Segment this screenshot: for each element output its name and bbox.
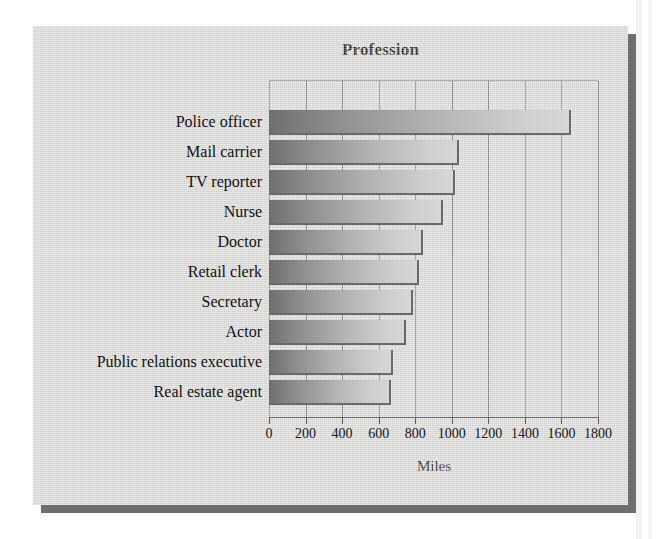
x-axis-tick-label: 800 [405,426,426,442]
bar [269,170,455,195]
x-axis-tick-label: 1200 [474,426,502,442]
gridline [598,81,599,417]
x-axis-tick-label: 1000 [438,426,466,442]
bar-row [269,320,406,345]
bar-row [269,290,413,315]
bar [269,320,406,345]
scan-band-right [648,0,652,539]
bar-row [269,200,443,225]
bar-row [269,110,571,135]
x-axis-tick [269,418,270,424]
bar [269,380,391,405]
category-label: Doctor [218,233,262,251]
bar-row [269,380,391,405]
x-axis-tick [306,418,307,424]
x-axis-tick-label: 1400 [511,426,539,442]
x-axis-label: Miles [269,458,599,475]
bar-row [269,350,393,375]
x-axis-tick [452,418,453,424]
x-axis-tick-label: 1600 [547,426,575,442]
page-background: Profession Miles 02004006008001000120014… [0,0,666,539]
x-axis-tick [525,418,526,424]
bar [269,350,393,375]
bar [269,110,571,135]
category-label: TV reporter [186,173,262,191]
x-axis-tick [379,418,380,424]
bar [269,260,419,285]
x-axis-tick-label: 600 [368,426,389,442]
x-axis-tick-label: 0 [266,426,273,442]
category-label: Secretary [202,293,262,311]
x-axis-tick [561,418,562,424]
x-axis-tick [342,418,343,424]
bar [269,140,459,165]
category-label: Actor [226,323,262,341]
bar [269,200,443,225]
x-axis-tick [415,418,416,424]
bar-row [269,260,419,285]
category-label: Real estate agent [154,383,262,401]
category-label: Nurse [224,203,262,221]
chart-title: Profession [33,40,628,60]
category-label: Mail carrier [186,143,262,161]
scan-band-left [636,0,642,539]
x-axis-tick [488,418,489,424]
category-label: Public relations executive [97,353,262,371]
x-axis-tick-label: 200 [295,426,316,442]
x-axis-line [269,417,599,418]
bar [269,230,423,255]
bar-row [269,140,459,165]
category-label: Police officer [176,113,262,131]
bar-row [269,230,423,255]
chart-panel: Profession Miles 02004006008001000120014… [33,26,628,505]
x-axis-tick-label: 400 [332,426,353,442]
bar [269,290,413,315]
bar-row [269,170,455,195]
category-label: Retail clerk [188,263,262,281]
x-axis-tick [598,418,599,424]
x-axis-tick-label: 1800 [584,426,612,442]
